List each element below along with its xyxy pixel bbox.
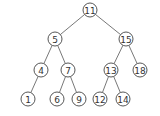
tree-diagram: 115154713181691214 <box>0 0 160 116</box>
edge-11-15 <box>95 14 120 34</box>
tree-node-4: 4 <box>34 63 48 77</box>
node-label: 13 <box>105 66 116 76</box>
node-label: 6 <box>54 95 60 105</box>
tree-node-9: 9 <box>72 92 86 106</box>
tree-node-14: 14 <box>116 92 130 106</box>
node-label: 14 <box>117 95 129 105</box>
edge-5-7 <box>58 45 66 63</box>
tree-node-11: 11 <box>83 3 97 17</box>
node-label: 11 <box>84 6 95 16</box>
tree-node-6: 6 <box>50 92 64 106</box>
tree-node-7: 7 <box>61 63 75 77</box>
node-label: 5 <box>52 35 58 45</box>
node-label: 18 <box>134 66 146 76</box>
edge-15-13 <box>114 45 123 63</box>
node-label: 15 <box>120 35 131 45</box>
tree-node-18: 18 <box>133 63 147 77</box>
edge-13-12 <box>102 77 108 93</box>
edge-4-1 <box>31 76 38 92</box>
tree-node-1: 1 <box>21 92 35 106</box>
tree-node-5: 5 <box>48 32 62 46</box>
tree-edges <box>31 14 137 92</box>
tree-node-12: 12 <box>93 92 107 106</box>
edge-5-4 <box>44 45 52 63</box>
edge-7-9 <box>70 77 76 93</box>
node-label: 9 <box>76 95 82 105</box>
edge-7-6 <box>59 77 65 93</box>
edge-11-5 <box>60 14 84 34</box>
node-label: 7 <box>65 66 71 76</box>
tree-nodes: 115154713181691214 <box>21 3 147 106</box>
tree-node-13: 13 <box>104 63 118 77</box>
edge-13-14 <box>114 76 121 92</box>
node-label: 4 <box>38 66 44 76</box>
edge-15-18 <box>129 45 137 63</box>
tree-node-15: 15 <box>119 32 133 46</box>
node-label: 1 <box>25 95 31 105</box>
node-label: 12 <box>94 95 105 105</box>
